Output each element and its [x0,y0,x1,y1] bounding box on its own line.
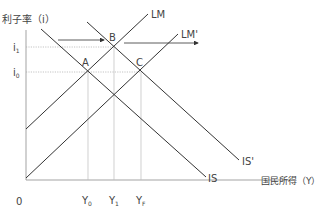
is-lm-diagram: 利子率（i） 国民所得（Y） 0 i1 i0 Y0 Y1 YF LM LM' I… [0,0,324,214]
tick-yf: YF [135,195,146,207]
is-prime-label: IS' [242,156,254,167]
is-label: IS [208,173,217,184]
x-axis-label: 国民所得（Y） [261,175,321,186]
lm-prime-curve [26,34,178,178]
lm-label: LM [151,9,165,20]
origin-label: 0 [16,196,22,207]
point-c-label: C [136,57,143,68]
lm-prime-label: LM' [181,29,198,40]
is-curve [41,29,206,177]
point-b-label: B [109,32,116,43]
tick-y1: Y1 [108,195,119,207]
point-a-label: A [82,57,89,68]
tick-i1: i1 [13,42,20,54]
tick-i0: i0 [13,67,20,79]
y-axis-label: 利子率（i） [2,13,55,25]
lm-curve [26,14,148,129]
tick-y0: Y0 [81,195,92,207]
